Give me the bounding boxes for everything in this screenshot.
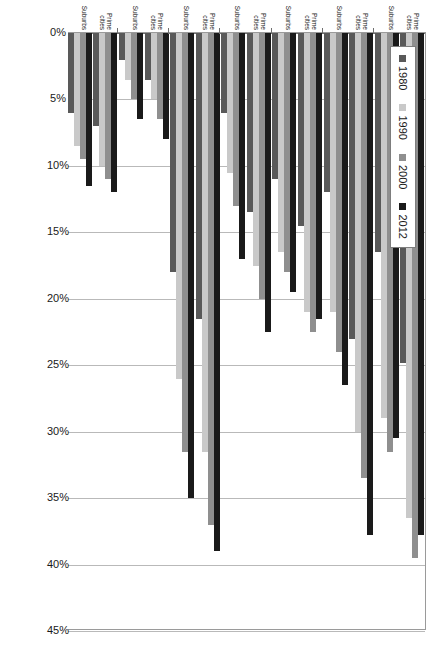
bar-1980 xyxy=(119,33,125,60)
bar-group xyxy=(297,33,323,629)
bar-chart-figure: Los AngelesNew YorkRiverside–San Bernard… xyxy=(0,0,434,660)
subcategory-label: Primecities xyxy=(406,0,420,30)
subcategory-label: Suburbs xyxy=(234,0,241,30)
x-tick-label: 30% xyxy=(38,425,78,437)
legend-swatch-icon xyxy=(400,154,407,161)
bar-1990 xyxy=(330,33,336,312)
bar-1990 xyxy=(381,33,387,418)
bar-group xyxy=(220,33,246,629)
subcategory-label: Primecities xyxy=(253,0,267,30)
x-tick-label: 40% xyxy=(38,558,78,570)
bar-group xyxy=(272,33,298,629)
axis-tick-mark xyxy=(168,28,169,34)
bar-1990 xyxy=(202,33,208,452)
bar-2000 xyxy=(259,33,265,299)
bar-1980 xyxy=(196,33,202,319)
subcategory-label: Suburbs xyxy=(388,0,395,30)
chart-legend: 1980199020002012 xyxy=(390,46,416,248)
bar-2000 xyxy=(105,33,111,179)
x-tick-label: 20% xyxy=(38,292,78,304)
x-tick-label: 0% xyxy=(38,26,78,38)
bar-1980 xyxy=(349,33,355,339)
bar-1990 xyxy=(227,33,233,173)
bar-1980 xyxy=(170,33,176,272)
bar-2012 xyxy=(188,33,194,498)
bar-2012 xyxy=(239,33,245,259)
subcategory-label: Primecities xyxy=(202,0,216,30)
bar-1990 xyxy=(125,33,131,80)
x-tick-label: 5% xyxy=(38,92,78,104)
bar-1990 xyxy=(304,33,310,312)
legend-item-1990: 1990 xyxy=(397,104,409,139)
bar-2000 xyxy=(208,33,214,525)
axis-tick-mark xyxy=(219,28,220,34)
bar-1980 xyxy=(272,33,278,179)
bar-2012 xyxy=(316,33,322,319)
bar-group xyxy=(169,33,195,629)
bar-2000 xyxy=(182,33,188,452)
x-tick-label: 25% xyxy=(38,358,78,370)
bar-2012 xyxy=(418,33,424,535)
bar-2012 xyxy=(265,33,271,332)
bar-group xyxy=(93,33,119,629)
bar-group xyxy=(246,33,272,629)
x-axis-tick-labels: 0%5%10%15%20%25%30%35%40%45% xyxy=(8,32,68,630)
bar-2012 xyxy=(111,33,117,192)
legend-item-2012: 2012 xyxy=(397,203,409,238)
x-tick-label: 35% xyxy=(38,491,78,503)
subcategory-label: Suburbs xyxy=(132,0,139,30)
bar-1990 xyxy=(74,33,80,146)
axis-tick-mark xyxy=(322,28,323,34)
gridline xyxy=(68,631,425,632)
bars-layer xyxy=(68,33,425,629)
bar-2012 xyxy=(86,33,92,186)
bar-1990 xyxy=(355,33,361,432)
legend-label: 2012 xyxy=(397,214,409,238)
subcategory-label: Primecities xyxy=(304,0,318,30)
bar-2000 xyxy=(336,33,342,352)
legend-swatch-icon xyxy=(400,104,407,111)
subcategory-label: Primecities xyxy=(355,0,369,30)
subcategory-label: Suburbs xyxy=(337,0,344,30)
bar-group xyxy=(348,33,374,629)
bar-group xyxy=(67,33,93,629)
bar-1990 xyxy=(253,33,259,266)
bar-2000 xyxy=(361,33,367,478)
bar-group xyxy=(144,33,170,629)
bar-2000 xyxy=(233,33,239,206)
bar-2012 xyxy=(290,33,296,292)
legend-swatch-icon xyxy=(400,55,407,62)
rotated-chart-wrapper: Los AngelesNew YorkRiverside–San Bernard… xyxy=(0,0,434,660)
axis-tick-mark xyxy=(373,28,374,34)
bar-1980 xyxy=(145,33,151,80)
x-tick-label: 45% xyxy=(38,624,78,636)
axis-tick-mark xyxy=(117,28,118,34)
legend-item-1980: 1980 xyxy=(397,55,409,90)
bar-2000 xyxy=(310,33,316,332)
legend-label: 2000 xyxy=(397,165,409,189)
bar-2012 xyxy=(163,33,169,139)
bar-2012 xyxy=(367,33,373,535)
subcategory-label: Suburbs xyxy=(183,0,190,30)
subcategory-label: Primecities xyxy=(151,0,165,30)
bar-2000 xyxy=(284,33,290,272)
bar-1990 xyxy=(99,33,105,166)
legend-swatch-icon xyxy=(400,203,407,210)
bar-2012 xyxy=(342,33,348,385)
x-tick-label: 15% xyxy=(38,225,78,237)
legend-item-2000: 2000 xyxy=(397,154,409,189)
bar-1990 xyxy=(176,33,182,379)
bar-1990 xyxy=(151,33,157,99)
bar-2000 xyxy=(157,33,163,119)
subcategory-label: Primecities xyxy=(99,0,113,30)
bar-1980 xyxy=(298,33,304,226)
legend-label: 1980 xyxy=(397,66,409,90)
bar-1980 xyxy=(221,33,227,113)
bar-2012 xyxy=(137,33,143,119)
bar-2000 xyxy=(131,33,137,99)
plot-area xyxy=(68,32,426,630)
bar-2000 xyxy=(80,33,86,159)
bar-2012 xyxy=(214,33,220,551)
legend-label: 1990 xyxy=(397,115,409,139)
bar-1980 xyxy=(247,33,253,212)
